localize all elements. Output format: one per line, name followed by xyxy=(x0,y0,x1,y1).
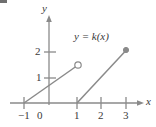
graph-figure: y x −1 0 1 2 3 1 2 y = k(x) xyxy=(0,0,156,127)
y-axis-label: y xyxy=(42,3,47,14)
y-tick-label-2: 2 xyxy=(35,46,41,57)
closed-endpoint-marker xyxy=(123,47,128,52)
x-axis-arrow xyxy=(137,100,144,106)
curve-equation-label: y = k(x) xyxy=(74,31,109,42)
y-tick-label-1: 1 xyxy=(36,72,42,83)
x-tick-label-neg1: −1 xyxy=(18,110,30,121)
y-axis-arrow xyxy=(46,15,52,22)
x-axis-label: x xyxy=(146,96,151,107)
x-tick-label-1: 1 xyxy=(74,110,80,121)
x-tick-label-2: 2 xyxy=(98,110,104,121)
x-tick-label-3: 3 xyxy=(123,110,129,121)
plot-canvas xyxy=(0,0,156,127)
curve-branch-2 xyxy=(77,52,125,104)
x-tick-label-0: 0 xyxy=(37,110,43,121)
curve-branch-1 xyxy=(24,67,76,104)
open-endpoint-marker xyxy=(75,62,81,68)
